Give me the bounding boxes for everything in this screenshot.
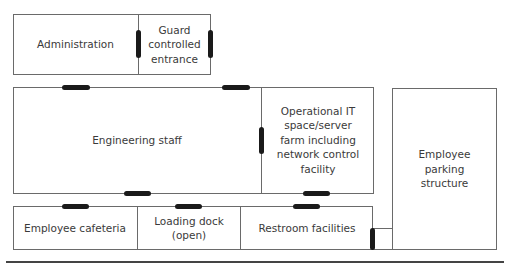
engineering-top-door-1 [62,85,90,90]
loading-top-door [175,204,202,209]
it-label: Operational IT space/server farm includi… [262,90,374,190]
restroom-connector-door [370,228,375,250]
engineering-top-door-2 [222,85,250,90]
guard-label: Guard controlled entrance [138,14,211,75]
ground-line [6,261,504,263]
engineering-label: Engineering staff [13,87,261,194]
administration-label: Administration [13,14,138,75]
engineering-it-door [259,127,264,154]
cafeteria-label: Employee cafeteria [13,206,137,250]
engineering-bottom-door [124,191,151,196]
restroom-label: Restroom facilities [241,206,373,250]
parking-label: Employee parking structure [392,88,497,250]
loading-label: Loading dock (open) [138,206,240,250]
restroom-top-door [293,204,320,209]
it-bottom-door [303,191,330,196]
cafeteria-top-door [62,204,89,209]
parking-connector [372,228,393,250]
admin-guard-door [136,30,141,58]
guard-entrance-door [208,30,213,58]
